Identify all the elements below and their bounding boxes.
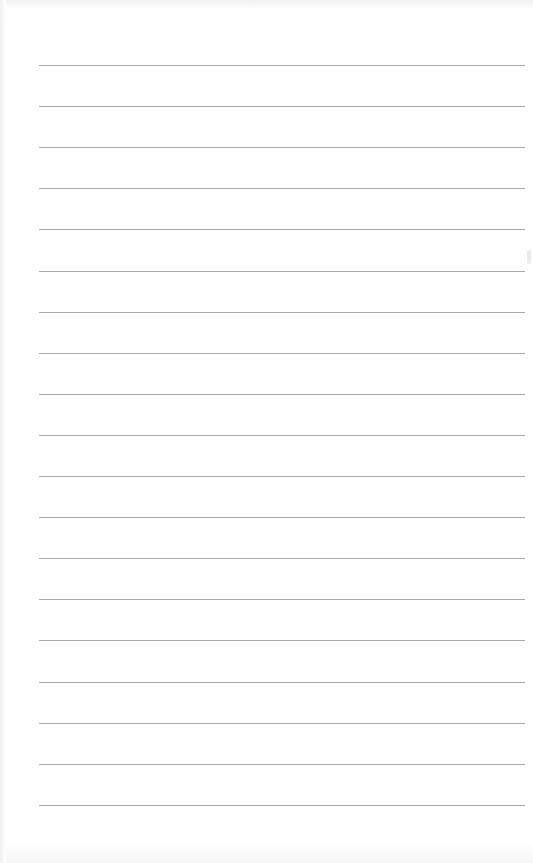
ruled-line [39, 271, 525, 272]
ruled-line [39, 599, 525, 600]
ruled-line [39, 682, 525, 683]
ruled-line [39, 353, 525, 354]
lined-paper-sheet [0, 0, 533, 863]
ruled-line [39, 558, 525, 559]
paper-edge-shadow [0, 0, 6, 863]
ruled-line [39, 312, 525, 313]
ruled-line [39, 764, 525, 765]
ruled-line [39, 229, 525, 230]
ruled-line [39, 640, 525, 641]
ruled-line [39, 106, 525, 107]
ruled-line [39, 394, 525, 395]
ruled-line [39, 147, 525, 148]
ruled-line [39, 435, 525, 436]
ruled-line [39, 517, 525, 518]
paper-blemish [527, 250, 531, 264]
ruled-line [39, 805, 525, 806]
ruled-line [39, 188, 525, 189]
ruled-line [39, 476, 525, 477]
ruled-line [39, 723, 525, 724]
ruled-line [39, 65, 525, 66]
